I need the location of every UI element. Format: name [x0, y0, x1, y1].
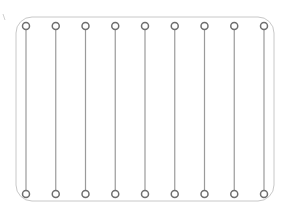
column-9 [261, 23, 268, 198]
bottom-node-circle-icon [171, 191, 178, 198]
column-8 [231, 23, 238, 198]
column-group [23, 23, 268, 198]
top-node-circle-icon [142, 23, 149, 30]
column-5 [142, 23, 149, 198]
top-node-circle-icon [112, 23, 119, 30]
top-node-circle-icon [261, 23, 268, 30]
bottom-node-circle-icon [231, 191, 238, 198]
column-3 [82, 23, 89, 198]
column-2 [52, 23, 59, 198]
bottom-node-circle-icon [142, 191, 149, 198]
bottom-node-circle-icon [201, 191, 208, 198]
top-node-circle-icon [82, 23, 89, 30]
bottom-node-circle-icon [82, 191, 89, 198]
bottom-node-circle-icon [23, 191, 30, 198]
top-node-circle-icon [231, 23, 238, 30]
bottom-node-circle-icon [112, 191, 119, 198]
left-marker [3, 14, 5, 20]
top-node-circle-icon [52, 23, 59, 30]
top-node-circle-icon [171, 23, 178, 30]
column-4 [112, 23, 119, 198]
top-node-circle-icon [201, 23, 208, 30]
column-1 [23, 23, 30, 198]
column-6 [171, 23, 178, 198]
bottom-node-circle-icon [52, 191, 59, 198]
bottom-node-circle-icon [261, 191, 268, 198]
pin-diagram [0, 0, 287, 208]
column-7 [201, 23, 208, 198]
top-node-circle-icon [23, 23, 30, 30]
